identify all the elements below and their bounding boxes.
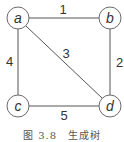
svg-text:b: b [106,10,114,26]
figure-caption: 图 3.8 生成树 [0,127,124,142]
weight-a-b: 1 [59,2,66,17]
edge-a-d [26,26,102,98]
node-b: b [99,7,121,29]
node-c: c [7,95,29,117]
weight-a-d: 3 [62,46,69,61]
graph-diagram: 1 2 3 4 5 a b c d [0,0,124,142]
weight-a-c: 4 [6,54,13,69]
svg-text:c: c [15,98,22,114]
weight-b-d: 2 [116,55,123,70]
weight-c-d: 5 [60,108,67,123]
svg-text:d: d [106,98,115,114]
node-d: d [99,95,121,117]
svg-text:a: a [14,10,22,26]
node-a: a [7,7,29,29]
